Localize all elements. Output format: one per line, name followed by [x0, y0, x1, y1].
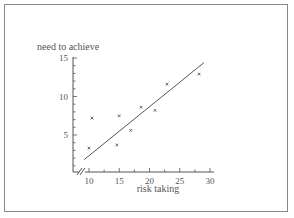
- y-tick-label: 5: [64, 130, 69, 140]
- axes: [73, 57, 214, 175]
- trend-line: [84, 63, 204, 160]
- x-tick-label: 25: [175, 176, 185, 186]
- data-point-marker: [88, 147, 91, 150]
- x-tick-label: 15: [115, 176, 125, 186]
- x-axis-label: risk taking: [137, 183, 180, 194]
- data-point-marker: [140, 106, 143, 109]
- y-tick-label: 15: [59, 53, 69, 63]
- y-axis-label: need to achieve: [37, 41, 100, 52]
- x-tick-label: 10: [85, 176, 95, 186]
- data-point-marker: [118, 114, 121, 117]
- data-point-marker: [198, 73, 201, 76]
- data-point-marker: [166, 83, 169, 86]
- data-point-marker: [116, 144, 119, 147]
- data-point-marker: [129, 129, 132, 132]
- y-tick-label: 10: [59, 92, 69, 102]
- data-point-marker: [91, 117, 94, 120]
- data-point-marker: [154, 109, 157, 112]
- scatter-chart: need to achieve risk taking 101520253051…: [0, 0, 294, 218]
- x-tick-label: 20: [145, 176, 155, 186]
- best-fit-line: [84, 63, 204, 160]
- x-tick-label: 30: [206, 176, 216, 186]
